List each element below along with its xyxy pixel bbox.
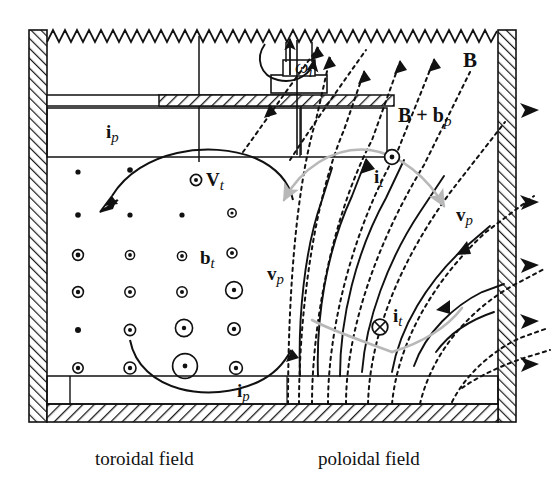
poloidal-velocity-arrows bbox=[284, 150, 462, 352]
ip-bottom-label: ip bbox=[237, 380, 250, 405]
figure-root: ωi ip Vt bt B B + bp it it vp vp ip toro… bbox=[0, 0, 560, 496]
caption-poloidal: poloidal field bbox=[318, 448, 420, 470]
B-label: B bbox=[463, 48, 477, 73]
dotted-line-2 bbox=[299, 72, 364, 404]
omega-i-label: ωi bbox=[295, 56, 313, 81]
solid-field-lines bbox=[300, 160, 504, 376]
vp-left-label: vp bbox=[267, 263, 284, 288]
sawtooth-top-edge bbox=[47, 30, 497, 42]
wall-arrow-4 bbox=[520, 314, 539, 329]
wall-arrow-2 bbox=[520, 195, 539, 210]
solid-line-5 bbox=[392, 226, 490, 372]
vp-curve-lower-right bbox=[392, 308, 462, 352]
it-lower-label: it bbox=[393, 305, 402, 330]
ip-top-label: ip bbox=[106, 121, 119, 146]
caption-toroidal: toroidal field bbox=[95, 448, 194, 470]
toroidal-dot-grid bbox=[73, 167, 243, 378]
ip-arc-lower bbox=[130, 340, 291, 392]
bt-label: bt bbox=[200, 247, 215, 272]
diagram-canvas bbox=[0, 0, 560, 496]
vp-right-label: vp bbox=[456, 204, 473, 229]
bottom-wall bbox=[47, 404, 498, 422]
toroidal-velocity-marker bbox=[190, 174, 201, 185]
right-wall bbox=[498, 30, 516, 422]
dotted-line-8 bbox=[420, 268, 546, 404]
internal-structures bbox=[47, 36, 498, 404]
left-wall bbox=[29, 30, 47, 422]
solid-line-4 bbox=[362, 176, 444, 372]
solid-arrow-B-bp bbox=[360, 158, 375, 174]
solid-arrow-it-lower bbox=[436, 300, 450, 314]
B-plus-bp-label: B + bp bbox=[398, 104, 452, 130]
wall-arrow-1 bbox=[520, 103, 539, 118]
solid-line-6 bbox=[414, 284, 504, 366]
it-upper-label: it bbox=[374, 166, 383, 191]
wall-arrow-5 bbox=[520, 357, 539, 372]
lower-chamber-box bbox=[47, 376, 498, 404]
wall-arrow-3 bbox=[520, 258, 539, 273]
it-out-dot bbox=[390, 155, 395, 160]
Vt-label: Vt bbox=[206, 169, 224, 194]
